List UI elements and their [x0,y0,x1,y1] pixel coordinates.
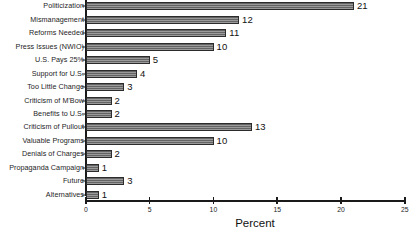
bar[interactable] [86,70,137,78]
bar-value-label: 5 [153,55,158,65]
bar-value-label: 10 [217,42,228,52]
plot-area: Politicization21Mismanagement12Reforms N… [0,0,416,200]
bar-value-label: 21 [357,1,368,11]
bar-row: Benefits to U.S.2 [0,107,416,121]
bar-row: Future3 [0,175,416,189]
category-label: Future [63,177,84,185]
bar-row: Support for U.S.4 [0,67,416,81]
value-axis-tick [149,197,151,204]
value-axis-tick-label: 10 [210,206,218,214]
category-label: Support for U.S. [32,70,84,78]
bar-chart: Politicization21Mismanagement12Reforms N… [0,0,416,237]
bar-row: U.S. Pays 25%5 [0,53,416,67]
bar-row: Valuable Programs10 [0,134,416,148]
category-label: Criticism of Pullout [23,123,84,131]
bar[interactable] [86,164,99,172]
bar[interactable] [86,177,124,185]
category-label: U.S. Pays 25% [35,56,84,64]
bar-value-label: 12 [242,15,253,25]
value-axis-tick-label: 0 [84,206,88,214]
value-axis-tick-label: 25 [401,206,409,214]
category-label: Valuable Programs [23,137,84,145]
bar[interactable] [86,97,112,105]
value-axis-line [85,200,406,202]
category-label: Reforms Needed [29,29,84,37]
value-axis-tick-label: 20 [337,206,345,214]
bar-value-label: 2 [115,96,120,106]
bar[interactable] [86,83,124,91]
bar[interactable] [86,29,226,37]
value-axis-tick-label: 5 [148,206,152,214]
category-label: Mismanagement [30,16,84,24]
bar-row: Denials of Charges2 [0,148,416,162]
category-label: Denials of Charges [22,150,84,158]
bar-row: Press Issues (NWIO)10 [0,40,416,54]
category-label: Benefits to U.S. [33,110,84,118]
category-label: Politicization [43,2,84,10]
bar-row: Mismanagement12 [0,13,416,27]
bar[interactable] [86,2,354,10]
bar-value-label: 3 [127,176,132,186]
bar[interactable] [86,110,112,118]
value-axis-tick [276,197,278,204]
value-axis-tick [340,197,342,204]
category-label: Criticism of M'Bow [24,97,84,105]
bar[interactable] [86,137,214,145]
value-axis-title: Percent [235,217,275,230]
value-axis-tick [85,197,87,204]
bar-value-label: 2 [115,109,120,119]
value-axis: 0510152025 Percent [0,196,416,237]
bar-value-label: 1 [102,163,107,173]
bar-row: Reforms Needed11 [0,26,416,40]
bar-value-label: 11 [229,28,239,38]
bar[interactable] [86,43,214,51]
bar-value-label: 13 [255,122,266,132]
value-axis-tick-label: 15 [273,206,281,214]
bar-row: Too Little Change3 [0,80,416,94]
bar-value-label: 10 [217,136,228,146]
bar-row: Propaganda Campaign1 [0,161,416,175]
bar[interactable] [86,123,252,131]
category-label: Propaganda Campaign [9,164,84,172]
bar[interactable] [86,56,150,64]
bar-row: Criticism of Pullout13 [0,121,416,135]
bar[interactable] [86,150,112,158]
value-axis-tick [213,197,215,204]
bar-value-label: 2 [115,149,120,159]
value-axis-tick [404,197,406,204]
bar-value-label: 4 [140,69,145,79]
bar-row: Criticism of M'Bow2 [0,94,416,108]
category-label: Press Issues (NWIO) [16,43,84,51]
bar-row: Politicization21 [0,0,416,13]
category-label: Too Little Change [27,83,84,91]
bar[interactable] [86,16,239,24]
bar-value-label: 3 [127,82,132,92]
